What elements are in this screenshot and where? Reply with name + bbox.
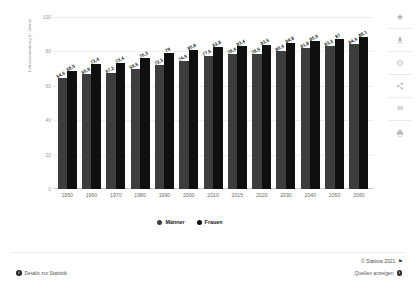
bar-frauen[interactable]: 87 <box>335 39 345 189</box>
bar-frauen[interactable]: 84,8 <box>286 43 296 189</box>
legend-dot-icon <box>197 220 202 225</box>
bar-value-label: 80,4 <box>275 43 285 52</box>
bar-value-label: 83,4 <box>236 38 246 47</box>
copyright-row: © Statista 2021 ⚑ <box>355 258 402 264</box>
x-axis-ticks: 1950196019701980199020002010201520202030… <box>53 192 373 198</box>
bar-group: 67,273,4 <box>104 17 128 189</box>
bar-value-label: 87 <box>335 33 342 40</box>
y-tick-label: 20 <box>33 152 51 158</box>
flag-icon: ⚑ <box>398 258 402 264</box>
chart-page: Lebenserwartung in Jahren 100 80 60 40 2… <box>0 0 416 298</box>
bar-frauen[interactable]: 73,4 <box>116 63 126 189</box>
bar-value-label: 88,1 <box>357 30 367 39</box>
bar-value-label: 78,5 <box>251 46 261 55</box>
bar-group: 84,488,1 <box>347 17 371 189</box>
y-tick-label: 0 <box>33 186 51 192</box>
legend-item-frauen[interactable]: Frauen <box>197 219 223 225</box>
bar-maenner[interactable]: 78,5 <box>252 54 262 189</box>
bar-frauen[interactable]: 82,8 <box>213 47 223 189</box>
details-link-label: Details zur Statistik <box>25 270 68 276</box>
bar-maenner[interactable]: 84,4 <box>349 44 359 189</box>
bar-group: 64,668,5 <box>55 17 79 189</box>
bar-group: 77,682,8 <box>201 17 225 189</box>
info-icon: i <box>397 270 403 276</box>
bar-frauen[interactable]: 76,3 <box>140 58 150 189</box>
bar-maenner[interactable]: 78,4 <box>228 54 238 189</box>
bar-maenner[interactable]: 77,6 <box>204 56 214 189</box>
bar-maenner[interactable]: 81,8 <box>301 48 311 189</box>
bar-value-label: 84,4 <box>348 36 358 45</box>
footer-right: © Statista 2021 ⚑ Quellen anzeigen i <box>355 258 402 282</box>
legend-item-maenner[interactable]: Männer <box>157 219 184 225</box>
info-icon[interactable] <box>388 52 412 75</box>
y-tick-label: 80 <box>33 48 51 54</box>
side-toolbar: 99 <box>387 6 413 144</box>
x-tick-label: 2000 <box>177 192 201 198</box>
x-tick-label: 2020 <box>250 192 274 198</box>
statista-chart-card: Lebenserwartung in Jahren 100 80 60 40 2… <box>0 0 416 298</box>
bar-value-label: 77,6 <box>202 48 212 57</box>
bar-frauen[interactable]: 88,1 <box>359 37 369 189</box>
bar-maenner[interactable]: 67,2 <box>106 73 116 189</box>
x-tick-label: 1980 <box>128 192 152 198</box>
bar-maenner[interactable]: 66,9 <box>82 74 92 189</box>
bar-frauen[interactable]: 72,4 <box>91 64 101 189</box>
bar-value-label: 78,4 <box>226 47 236 56</box>
bar-maenner[interactable]: 74,5 <box>179 61 189 189</box>
bar-value-label: 82,8 <box>211 39 221 48</box>
bar-value-label: 83,6 <box>260 38 270 47</box>
bar-maenner[interactable]: 83,2 <box>325 46 335 189</box>
x-tick-label: 2050 <box>322 192 346 198</box>
download-icon[interactable] <box>388 29 412 52</box>
bar-value-label: 68,5 <box>66 64 76 73</box>
legend-label: Frauen <box>205 219 223 225</box>
bar-frauen[interactable]: 68,5 <box>67 71 77 189</box>
info-icon: i <box>16 270 22 276</box>
details-link[interactable]: i Details zur Statistik <box>16 270 67 276</box>
sources-link[interactable]: Quellen anzeigen i <box>355 270 402 276</box>
legend-label: Männer <box>165 219 184 225</box>
x-tick-label: 1970 <box>104 192 128 198</box>
bar-group: 80,484,8 <box>274 17 298 189</box>
x-tick-label: 2030 <box>274 192 298 198</box>
bar-frauen[interactable]: 79 <box>164 53 174 189</box>
x-tick-label: 1950 <box>55 192 79 198</box>
bar-value-label: 84,8 <box>284 36 294 45</box>
bar-value-label: 79 <box>164 47 171 54</box>
sources-link-label: Quellen anzeigen <box>355 270 394 276</box>
y-tick-label: 100 <box>33 14 51 20</box>
bar-value-label: 73,4 <box>114 55 124 64</box>
quote-icon[interactable]: 99 <box>388 98 412 121</box>
bar-group: 69,676,3 <box>128 17 152 189</box>
bar-frauen[interactable]: 85,9 <box>310 41 320 189</box>
bar-frauen[interactable]: 83,6 <box>262 45 272 189</box>
x-tick-label: 2010 <box>201 192 225 198</box>
footer-divider <box>10 252 406 253</box>
bar-value-label: 67,2 <box>105 66 115 75</box>
bar-frauen[interactable]: 80,8 <box>189 50 199 189</box>
bar-value-label: 83,2 <box>323 38 333 47</box>
chart-legend: Männer Frauen <box>0 219 380 225</box>
bar-value-label: 72,3 <box>153 57 163 66</box>
bar-group: 81,885,9 <box>298 17 322 189</box>
x-tick-label: 1990 <box>152 192 176 198</box>
bar-value-label: 74,5 <box>178 53 188 62</box>
share-icon[interactable] <box>388 75 412 98</box>
bar-maenner[interactable]: 80,4 <box>276 51 286 189</box>
bar-maenner[interactable]: 69,6 <box>131 69 141 189</box>
bar-frauen[interactable]: 83,4 <box>237 46 247 189</box>
print-icon[interactable] <box>388 121 412 144</box>
favorite-icon[interactable] <box>388 6 412 29</box>
x-tick-label: 2015 <box>225 192 249 198</box>
bar-maenner[interactable]: 72,3 <box>155 65 165 189</box>
y-tick-label: 40 <box>33 117 51 123</box>
bar-group: 83,287 <box>322 17 346 189</box>
legend-dot-icon <box>157 220 162 225</box>
bar-maenner[interactable]: 64,6 <box>58 78 68 189</box>
x-tick-label: 2040 <box>298 192 322 198</box>
x-tick-label: 2060 <box>347 192 371 198</box>
bar-group: 78,583,6 <box>250 17 274 189</box>
bar-value-label: 81,8 <box>299 41 309 50</box>
bar-value-label: 80,8 <box>187 42 197 51</box>
x-tick-label: 1960 <box>79 192 103 198</box>
